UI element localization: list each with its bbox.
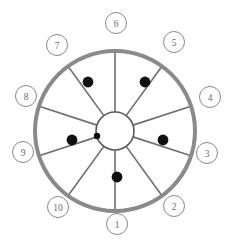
label-5-text: 5 (172, 38, 177, 48)
label-10-text: 10 (53, 203, 63, 213)
dot-on-spoke-3 (158, 135, 169, 146)
dot-on-spoke-5 (140, 77, 151, 88)
label-5[interactable]: 5 (164, 32, 185, 53)
dot-on-spoke-9 (67, 135, 78, 146)
label-9[interactable]: 9 (13, 142, 34, 163)
dot-on-spoke-1 (112, 172, 123, 183)
label-1[interactable]: 1 (107, 214, 128, 235)
label-6[interactable]: 6 (106, 13, 127, 34)
label-9-text: 9 (21, 148, 26, 158)
dot-at-hub (94, 133, 100, 139)
label-1-text: 1 (115, 220, 120, 230)
spoke-2 (126, 146, 161, 195)
spoke-10 (69, 146, 104, 195)
label-7-text: 7 (55, 41, 60, 51)
spoke-4 (133, 107, 190, 126)
spoke-7 (69, 67, 104, 116)
dot-on-spoke-7 (83, 77, 94, 88)
wheel-canvas: 12345678910 (0, 0, 229, 244)
label-8-text: 8 (24, 92, 29, 102)
label-6-text: 6 (114, 19, 119, 29)
label-10[interactable]: 10 (48, 197, 69, 218)
center-hub-circle (96, 112, 134, 150)
label-3[interactable]: 3 (197, 143, 218, 164)
label-4-text: 4 (208, 93, 213, 103)
label-4[interactable]: 4 (200, 87, 221, 108)
spoke-5 (126, 67, 161, 116)
wheel-diagram: 12345678910 (0, 0, 229, 244)
spoke-8 (40, 107, 97, 126)
label-2[interactable]: 2 (164, 196, 185, 217)
label-8[interactable]: 8 (16, 86, 37, 107)
label-2-text: 2 (172, 202, 177, 212)
label-7[interactable]: 7 (47, 35, 68, 56)
label-3-text: 3 (205, 149, 210, 159)
